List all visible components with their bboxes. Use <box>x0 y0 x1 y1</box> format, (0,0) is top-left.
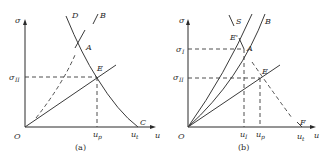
x-axis-arrow-icon <box>310 125 316 129</box>
caption-a: (a) <box>75 143 86 152</box>
curve-OS <box>188 14 252 127</box>
label-uI-sub: I <box>244 133 248 140</box>
curve-E1A <box>239 38 244 49</box>
label-E: E <box>96 64 103 73</box>
label-sigI-sub: I <box>181 48 185 55</box>
curve-OB-dashed <box>36 55 75 118</box>
label-F: F <box>299 118 306 127</box>
label-B: B <box>264 17 271 26</box>
label-B: B <box>99 11 106 20</box>
label-E: E <box>261 67 268 76</box>
label-u: u <box>314 131 319 140</box>
label-A: A <box>246 44 253 53</box>
label-u: u <box>155 131 160 140</box>
label-sigma: σ <box>179 16 185 25</box>
label-up-sub: p <box>261 133 265 141</box>
label-sigma: σ <box>15 16 21 25</box>
caption-b: (b) <box>238 143 249 152</box>
label-ut-sub: t <box>136 133 139 140</box>
label-sigII-sub: II <box>14 76 20 83</box>
figure: σ u O σ II u p u t D B A E C (a) <box>0 0 327 163</box>
label-up-sub: p <box>98 133 102 141</box>
label-C: C <box>140 118 146 127</box>
label-S: S <box>236 17 242 26</box>
label-O: O <box>178 132 185 141</box>
label-A: A <box>85 43 92 52</box>
label-sigII-sub: II <box>178 76 184 83</box>
y-axis-arrow-icon <box>186 19 190 25</box>
label-E-prime: E' <box>229 33 238 42</box>
panel-b: σ u O σ I σ II u I u p u t S B E' A E F … <box>173 14 319 152</box>
panel-a: σ u O σ II u p u t D B A E C (a) <box>9 11 160 152</box>
label-O: O <box>14 132 21 141</box>
label-D: D <box>71 11 79 20</box>
curve-B-top <box>93 14 98 24</box>
curve-S <box>229 15 234 26</box>
y-axis-arrow-icon <box>23 19 27 25</box>
line-OE <box>25 65 116 127</box>
label-ut-sub: t <box>302 135 305 142</box>
x-axis-arrow-icon <box>150 125 156 129</box>
